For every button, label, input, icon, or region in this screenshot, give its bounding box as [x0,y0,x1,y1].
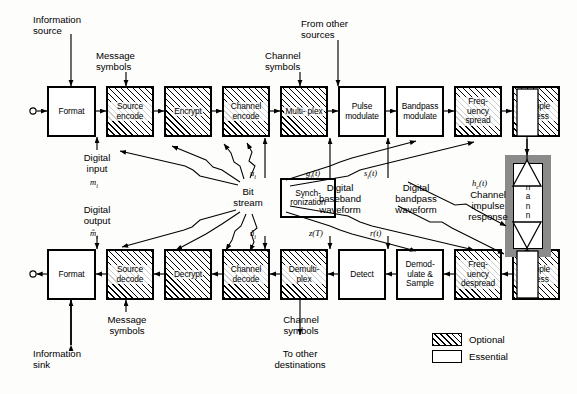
block-label: Demulti- plex [282,265,326,284]
block-label: Bandpass modulate [398,102,442,121]
block-label: Source encode [108,102,152,121]
block-label: Multiple access [514,265,558,284]
block-label: Source decode [108,265,152,284]
block-label: Multiple access [514,102,558,121]
block-label: Channel decode [224,265,268,284]
block-label: Multi- plex [284,107,323,116]
block-label: Format [58,270,86,279]
diagram-canvas: Format Source encode Encrypt Channel enc… [0,0,577,394]
block-label: Channel encode [224,102,268,121]
block-label: Demod- ulate & Sample [398,260,442,288]
block-label: Format [58,107,86,116]
block-label: Pulse modulate [340,102,384,121]
block-label: Detect [349,270,375,279]
block-label: Decrypt [173,270,203,279]
block-label: Freq- uency spread [456,97,500,125]
block-label: Synch- ronization [282,189,334,208]
block-label: Encrypt [173,107,203,116]
block-label: Freq- uency despread [456,260,500,288]
